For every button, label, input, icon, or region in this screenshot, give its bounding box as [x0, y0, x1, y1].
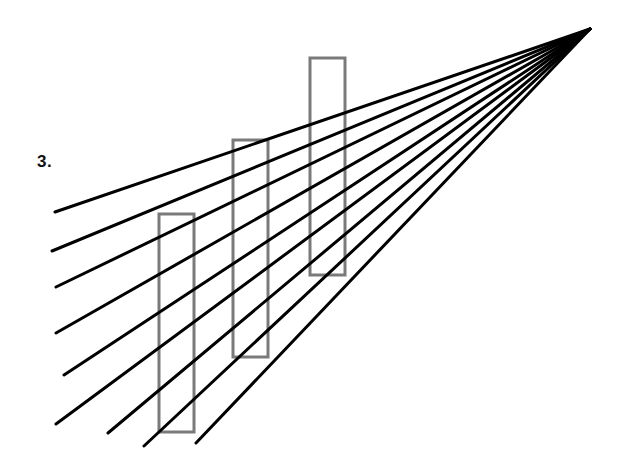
- rectangle-1: [159, 214, 194, 432]
- converging-line-9: [196, 29, 590, 443]
- illusion-diagram: [0, 0, 633, 454]
- converging-line-5: [64, 29, 590, 375]
- converging-line-4: [56, 29, 590, 333]
- converging-line-8: [144, 29, 590, 446]
- converging-lines-group: [52, 29, 590, 446]
- converging-line-3: [56, 29, 590, 287]
- converging-line-2: [52, 29, 590, 251]
- converging-line-7: [108, 29, 590, 433]
- rectangle-3: [310, 58, 345, 275]
- converging-line-6: [56, 29, 590, 424]
- converging-line-1: [55, 29, 590, 212]
- rectangles-group: [159, 58, 345, 432]
